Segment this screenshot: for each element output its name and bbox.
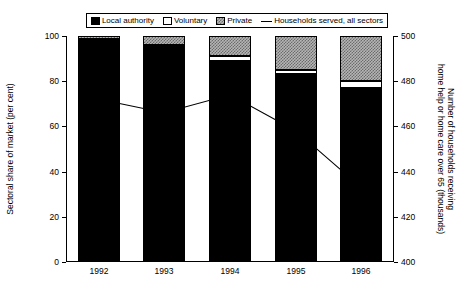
right-axis-tick-label: 400 bbox=[401, 258, 415, 267]
filled-square-black-icon bbox=[91, 17, 100, 25]
right-axis-tick-label: 420 bbox=[401, 212, 415, 221]
x-axis-tick-label: 1995 bbox=[275, 266, 317, 276]
right-axis-tick bbox=[394, 262, 398, 263]
x-axis-labels: 19921993199419951996 bbox=[66, 266, 394, 278]
right-axis-tick-label: 480 bbox=[401, 77, 415, 86]
legend-label-private: Private bbox=[227, 16, 252, 25]
line-layer bbox=[66, 36, 394, 262]
legend-label-local-authority: Local authority bbox=[102, 16, 154, 25]
x-axis-tick-label: 1996 bbox=[340, 266, 382, 276]
households-served-polyline bbox=[99, 95, 361, 188]
right-axis-tick-label: 500 bbox=[401, 32, 415, 41]
legend-item-local-authority: Local authority bbox=[91, 16, 154, 25]
chart-legend: Local authority Voluntary Private Househ… bbox=[86, 13, 388, 28]
left-axis-tick-label: 0 bbox=[54, 258, 59, 267]
line-sample-icon bbox=[261, 17, 272, 25]
plot-area: 020406080100 400420440460480500 bbox=[66, 36, 394, 262]
right-axis-title-label: Number of households receivinghome help … bbox=[436, 64, 456, 234]
chart-figure: Local authority Voluntary Private Househ… bbox=[0, 0, 460, 293]
legend-item-voluntary: Voluntary bbox=[163, 16, 207, 25]
left-axis-tick-label: 20 bbox=[50, 212, 59, 221]
legend-label-voluntary: Voluntary bbox=[174, 16, 207, 25]
left-axis-title-label: Sectoral share of market (per cent) bbox=[5, 83, 15, 214]
right-axis-tick bbox=[394, 126, 398, 127]
left-axis-tick-label: 100 bbox=[45, 32, 59, 41]
left-axis-tick-label: 60 bbox=[50, 122, 59, 131]
right-axis-title: Number of households receivinghome help … bbox=[434, 36, 458, 262]
right-axis-tick bbox=[394, 36, 398, 37]
right-axis-tick bbox=[394, 172, 398, 173]
left-axis-tick bbox=[62, 262, 66, 263]
right-axis-tick bbox=[394, 217, 398, 218]
legend-label-households-served: Households served, all sectors bbox=[274, 16, 383, 25]
right-axis-tick bbox=[394, 81, 398, 82]
legend-item-private: Private bbox=[216, 16, 252, 25]
x-axis-tick-label: 1994 bbox=[209, 266, 251, 276]
x-axis-tick-label: 1993 bbox=[143, 266, 185, 276]
households-served-line bbox=[66, 36, 394, 262]
right-axis-tick-label: 460 bbox=[401, 122, 415, 131]
hatched-square-grey-icon bbox=[216, 17, 225, 25]
left-axis-title: Sectoral share of market (per cent) bbox=[4, 36, 16, 262]
open-square-white-icon bbox=[163, 17, 172, 25]
left-axis-tick-label: 80 bbox=[50, 77, 59, 86]
left-axis-tick-label: 40 bbox=[50, 167, 59, 176]
x-axis-tick-label: 1992 bbox=[78, 266, 120, 276]
right-axis-tick-label: 440 bbox=[401, 167, 415, 176]
legend-item-households-served: Households served, all sectors bbox=[261, 16, 383, 25]
